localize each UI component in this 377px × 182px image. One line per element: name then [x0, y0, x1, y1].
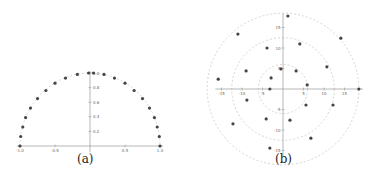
- data-point: [265, 117, 268, 120]
- data-point: [24, 116, 27, 119]
- data-point: [64, 77, 67, 80]
- data-point: [245, 98, 248, 101]
- data-point: [236, 32, 239, 35]
- data-point: [153, 116, 156, 119]
- data-point: [76, 73, 79, 76]
- data-point: [18, 144, 21, 147]
- y-tick-label: -5: [277, 107, 281, 112]
- x-tick-label: 10: [321, 91, 327, 96]
- data-point: [36, 97, 39, 100]
- data-point: [279, 67, 282, 70]
- data-point: [158, 144, 161, 147]
- data-point: [357, 87, 360, 90]
- data-point: [92, 71, 95, 74]
- data-point: [123, 82, 126, 85]
- x-tick-label: -0.5: [51, 148, 59, 153]
- data-point: [325, 65, 328, 68]
- data-point: [44, 89, 47, 92]
- y-tick-label: 0.2: [93, 129, 100, 134]
- x-tick-label: -5: [261, 91, 265, 96]
- x-tick-label: 5: [302, 91, 305, 96]
- y-tick-label: 15: [275, 25, 281, 30]
- y-tick-label: 0.8: [93, 85, 100, 90]
- x-tick-label: 1.0: [157, 148, 164, 153]
- data-point: [231, 122, 234, 125]
- data-point: [268, 87, 271, 90]
- x-tick-label: 15: [342, 91, 348, 96]
- data-point: [158, 135, 161, 138]
- x-tick-label: -15: [218, 91, 225, 96]
- x-tick-label: 0.5: [122, 148, 129, 153]
- y-tick-label: 0.4: [93, 114, 100, 119]
- data-point: [295, 69, 298, 72]
- data-point: [29, 106, 32, 109]
- data-point: [156, 125, 159, 128]
- data-point: [217, 78, 220, 81]
- x-tick-label: -10: [239, 91, 246, 96]
- data-point: [133, 89, 136, 92]
- figure-panel-b: -15-10-55101515105-5-10-15 (b): [190, 0, 377, 182]
- data-point: [265, 46, 268, 49]
- x-tick-label: -1.0: [16, 148, 24, 153]
- caption-b: (b): [275, 152, 292, 166]
- data-point: [245, 69, 248, 72]
- y-tick-label: 10: [275, 46, 281, 51]
- data-point: [309, 137, 312, 140]
- caption-a: (a): [77, 152, 94, 166]
- data-point: [286, 14, 289, 17]
- data-point: [304, 103, 307, 106]
- data-point: [87, 71, 90, 74]
- data-point: [102, 73, 105, 76]
- data-point: [148, 106, 151, 109]
- figure-panel-a: -1.0-0.50.51.00.20.40.60.81.0 (a): [0, 0, 190, 182]
- data-point: [141, 97, 144, 100]
- data-point: [113, 77, 116, 80]
- data-point: [21, 125, 24, 128]
- semicircle-scatter-plot: -1.0-0.50.51.00.20.40.60.81.0: [0, 0, 190, 182]
- y-tick-label: -10: [274, 128, 281, 133]
- data-point: [331, 103, 334, 106]
- data-point: [339, 37, 342, 40]
- data-point: [288, 119, 291, 122]
- data-point: [298, 42, 301, 45]
- y-tick-label: 0.6: [93, 100, 100, 105]
- data-point: [268, 146, 271, 149]
- data-point: [270, 76, 273, 79]
- data-point: [53, 82, 56, 85]
- data-point: [306, 83, 309, 86]
- data-point: [19, 135, 22, 138]
